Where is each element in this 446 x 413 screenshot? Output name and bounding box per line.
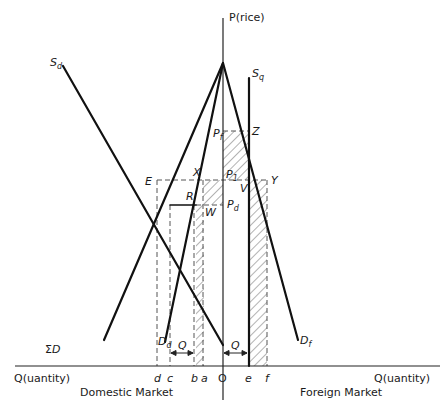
point-v-label: V	[240, 182, 249, 195]
domestic-supply-label: Sd	[50, 56, 63, 71]
quota-label-domestic: Q	[178, 339, 187, 352]
price-axis-label: P(rice)	[229, 11, 265, 24]
point-r-label: R	[186, 190, 194, 203]
sum-demand-label: ΣD	[45, 343, 60, 356]
point-z-label: Z	[251, 125, 260, 138]
tick-origin: O	[218, 372, 227, 385]
foreign-market-label: Foreign Market	[300, 386, 383, 399]
price-pd-label: Pd	[227, 198, 240, 213]
tick-f: f	[265, 372, 271, 385]
hatched-region-foreign-lower	[248, 180, 267, 366]
hatched-region-domestic-upper	[203, 180, 223, 205]
tick-d: d	[154, 372, 162, 385]
right-quantity-label: Q(uantity)	[374, 372, 430, 385]
point-e-label: E	[145, 175, 152, 188]
price-discrimination-diagram: P(rice) Q(uantity) Q(uantity) Domestic M…	[0, 0, 446, 413]
foreign-demand-label: Df	[300, 334, 312, 349]
tick-e: e	[245, 372, 252, 385]
domestic-market-label: Domestic Market	[80, 386, 174, 399]
point-x-label: X	[192, 166, 201, 179]
price-pf-label: Pf	[213, 127, 224, 142]
left-quantity-label: Q(uantity)	[14, 372, 70, 385]
quota-supply-label: Sq	[252, 67, 264, 82]
point-w-label: W	[205, 206, 217, 219]
quota-label-foreign: Q	[231, 339, 240, 352]
tick-c: c	[167, 372, 173, 385]
point-y-label: Y	[271, 174, 279, 187]
tick-a: a	[201, 372, 208, 385]
tick-b: b	[191, 372, 198, 385]
